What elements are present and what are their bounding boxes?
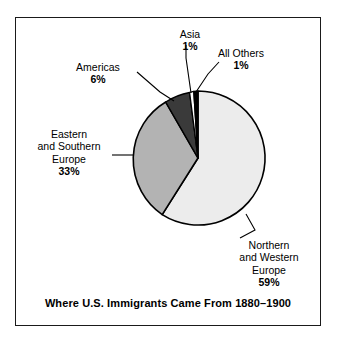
chart-title: Where U.S. Immigrants Came From 1880–190… — [16, 297, 320, 309]
pie-label-northern-line-1: Northern — [223, 239, 315, 251]
pie-label-eastern-line-3: Europe — [22, 153, 116, 165]
pie-label-all-others: All Others 1% — [203, 47, 279, 72]
pie-label-americas-percent: 6% — [58, 73, 138, 85]
pie-label-northern-and-western-europe: Northern and Western Europe 59% — [223, 239, 315, 288]
pie-label-asia-name: Asia — [160, 28, 220, 40]
leader-line-northern-and-western-europe — [240, 214, 255, 238]
pie-label-northern-line-3: Europe — [223, 264, 315, 276]
pie-label-eastern-percent: 33% — [22, 165, 116, 177]
pie-label-all-others-percent: 1% — [203, 59, 279, 71]
pie-label-eastern-and-southern-europe: Eastern and Southern Europe 33% — [22, 128, 116, 177]
leader-line-americas — [137, 72, 174, 101]
pie-label-northern-percent: 59% — [223, 276, 315, 288]
pie-label-americas-name: Americas — [58, 61, 138, 73]
pie-label-americas: Americas 6% — [58, 61, 138, 86]
pie-label-all-others-name: All Others — [203, 47, 279, 59]
pie-chart-figure: Asia 1% All Others 1% Americas 6% Easter… — [0, 0, 337, 345]
pie-label-eastern-line-1: Eastern — [22, 128, 116, 140]
pie-label-eastern-line-2: and Southern — [22, 140, 116, 152]
pie-label-northern-line-2: and Western — [223, 251, 315, 263]
